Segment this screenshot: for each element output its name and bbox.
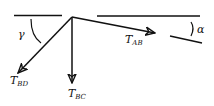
- gamma-angle-arc: [31, 19, 41, 43]
- alpha-angle-arc: [191, 22, 193, 36]
- t-bd-label: TBD: [10, 74, 28, 88]
- alpha-label: α: [197, 23, 205, 36]
- t-bc-label: TBC: [68, 87, 87, 101]
- gamma-label: γ: [18, 28, 25, 41]
- t-bd-arrow: [18, 17, 72, 73]
- t-ab-label: TAB: [125, 33, 143, 47]
- t-ab-arrow: [72, 17, 155, 33]
- alpha-slanted-reference-line: [170, 36, 202, 43]
- force-diagram: γ α TAB TBD TBC: [0, 0, 214, 106]
